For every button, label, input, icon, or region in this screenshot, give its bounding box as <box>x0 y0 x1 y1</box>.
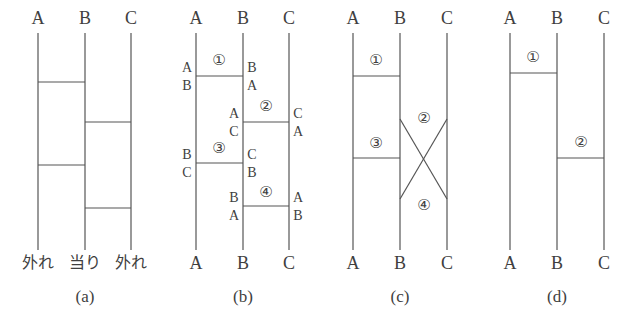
side-label-5: C <box>229 125 238 139</box>
bottom-label-1: B <box>551 254 563 272</box>
bottom-label-1: B <box>394 254 406 272</box>
top-label-1: B <box>394 9 406 27</box>
side-label-1: B <box>182 79 191 93</box>
side-label-9: C <box>182 166 191 180</box>
bottom-label-0: 外れ <box>22 255 54 271</box>
amidakuji-figure: ABC外れ当り外れ(a)ABCABCABBAACCABCCBBAAB①②③④(b… <box>0 0 624 320</box>
top-label-0: A <box>347 9 360 27</box>
bottom-label-0: A <box>190 254 203 272</box>
side-label-13: A <box>229 209 239 223</box>
side-label-10: C <box>247 148 256 162</box>
panel-caption: (d) <box>547 288 567 305</box>
top-label-0: A <box>32 9 45 27</box>
bottom-label-0: A <box>347 254 360 272</box>
top-label-2: C <box>125 9 137 27</box>
rung-number-0: ① <box>369 53 382 68</box>
bottom-label-2: C <box>598 254 610 272</box>
side-label-15: B <box>293 209 302 223</box>
bottom-label-2: 外れ <box>115 255 147 271</box>
rung-number-3: ④ <box>259 185 272 200</box>
side-label-2: B <box>247 61 256 75</box>
rung-number-1: ② <box>574 135 587 150</box>
rung-number-0: ① <box>212 53 225 68</box>
rung-number-2: ③ <box>212 141 225 156</box>
side-label-14: A <box>293 191 303 205</box>
top-label-2: C <box>283 9 295 27</box>
rung-number-0: ① <box>526 50 539 65</box>
rung-number-1: ② <box>417 111 430 126</box>
bottom-label-1: 当り <box>69 255 101 271</box>
side-label-8: B <box>182 148 191 162</box>
side-label-7: A <box>293 125 303 139</box>
top-label-1: B <box>551 9 563 27</box>
bottom-label-0: A <box>504 254 517 272</box>
rung-number-2: ③ <box>369 136 382 151</box>
side-label-3: A <box>247 79 257 93</box>
side-label-6: C <box>293 107 302 121</box>
top-label-1: B <box>237 9 249 27</box>
top-label-1: B <box>79 9 91 27</box>
side-label-12: B <box>229 191 238 205</box>
panel-caption: (a) <box>76 288 95 305</box>
top-label-0: A <box>504 9 517 27</box>
rung-number-1: ② <box>259 99 272 114</box>
panel-caption: (b) <box>233 288 253 305</box>
bottom-label-2: C <box>283 254 295 272</box>
top-label-0: A <box>190 9 203 27</box>
rung-number-3: ④ <box>417 198 430 213</box>
top-label-2: C <box>598 9 610 27</box>
side-label-11: B <box>247 166 256 180</box>
panel-caption: (c) <box>391 288 410 305</box>
side-label-0: A <box>182 61 192 75</box>
bottom-label-2: C <box>441 254 453 272</box>
bottom-label-1: B <box>237 254 249 272</box>
side-label-4: A <box>229 107 239 121</box>
top-label-2: C <box>441 9 453 27</box>
